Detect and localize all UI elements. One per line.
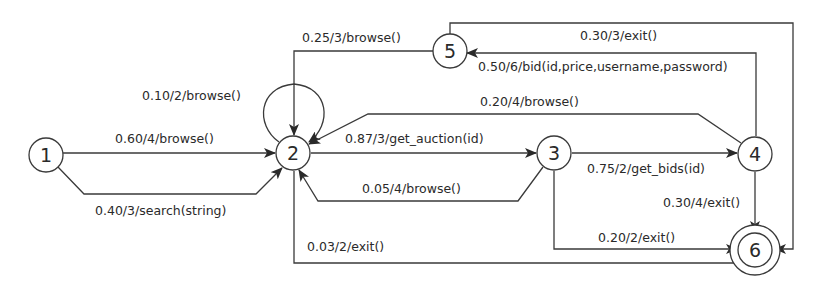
edge-label-1-2-browse: 0.60/4/browse() (115, 131, 214, 146)
state-node-1: 1 (29, 138, 63, 172)
state-node-2: 2 (276, 136, 310, 170)
edge-labels: 0.60/4/browse() 0.40/3/search(string) 0.… (95, 28, 740, 254)
node-label: 4 (749, 143, 761, 165)
edge-5-2-browse (294, 51, 433, 135)
state-node-3: 3 (537, 136, 571, 170)
node-label: 6 (749, 239, 761, 261)
edge-label-5-2-browse: 0.25/3/browse() (302, 30, 401, 45)
edge-label-3-6-exit: 0.20/2/exit() (598, 230, 675, 245)
node-label: 2 (287, 142, 299, 164)
edge-label-1-2-search: 0.40/3/search(string) (95, 203, 226, 218)
edge-label-2-2-browse: 0.10/2/browse() (142, 88, 241, 103)
edge-label-2-3-get-auction: 0.87/3/get_auction(id) (345, 131, 484, 146)
edge-label-3-4-get-bids: 0.75/2/get_bids(id) (587, 161, 705, 176)
edge-1-2-search (58, 167, 282, 194)
state-diagram: 1 2 3 4 5 6 0.60/4/browse() 0.40/3/searc… (0, 0, 820, 291)
edge-label-4-5-bid: 0.50/6/bid(id,price,username,password) (478, 59, 728, 74)
state-node-6-final: 6 (730, 225, 780, 275)
edge-label-5-6-exit: 0.30/3/exit() (580, 28, 657, 43)
node-label: 3 (548, 142, 560, 164)
edge-label-4-6-exit: 0.30/4/exit() (663, 195, 740, 210)
node-label: 5 (444, 40, 456, 62)
edge-label-4-2-browse: 0.20/4/browse() (480, 94, 579, 109)
state-node-5: 5 (433, 34, 467, 68)
edge-label-2-6-exit: 0.03/2/exit() (307, 239, 384, 254)
node-label: 1 (40, 144, 52, 166)
edge-5-6-exit (450, 23, 793, 249)
state-node-4: 4 (738, 137, 772, 171)
edge-label-3-2-browse: 0.05/4/browse() (362, 181, 461, 196)
